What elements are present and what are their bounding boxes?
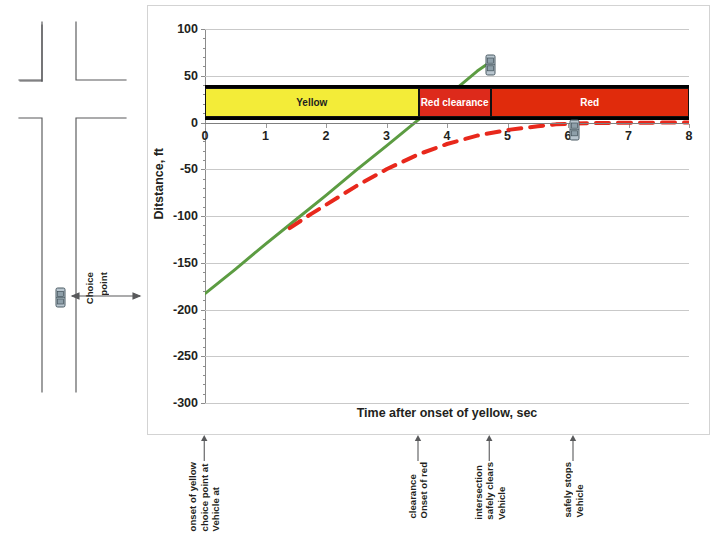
annotation-line: clearance <box>406 462 418 519</box>
y-tick-label: -300 <box>173 396 198 410</box>
annotation-line: choice point at <box>198 462 210 531</box>
y-tick-label: -50 <box>180 162 198 176</box>
car-stopped <box>569 119 580 145</box>
choice-point-label-line2: point <box>98 272 109 296</box>
choice-point-label-2: point <box>98 272 132 342</box>
road-lines-svg <box>0 0 148 440</box>
annotation-vehicle-safely-stops: Vehiclesafely stops <box>562 435 585 518</box>
annotation-vehicle-safely-clears: Vehiclesafely clearsintersection <box>472 435 507 520</box>
annotation-onset-of-red-clearance: Onset of redclearance <box>406 435 429 519</box>
signal-segment-red: Red <box>491 88 689 117</box>
car-icon <box>485 54 496 76</box>
annotation-text: Vehiclesafely clearsintersection <box>472 462 507 520</box>
signal-segment-red-clearance: Red clearance <box>419 88 491 117</box>
annotation-line: Vehicle <box>495 462 507 520</box>
annotation-text: Vehicle atchoice point atonset of yellow <box>187 462 222 531</box>
annotation-line: Vehicle at <box>210 462 222 531</box>
arrow-up-icon <box>413 435 422 461</box>
road-intersection-diagram: Choice point <box>0 0 148 440</box>
annotation-vehicle-at-choice-point: Vehicle atchoice point atonset of yellow <box>187 435 222 531</box>
car-icon <box>56 288 65 307</box>
arrow-up-icon <box>569 435 578 461</box>
y-tick-mark <box>201 403 205 404</box>
choice-point-label-line1: Choice <box>84 272 95 304</box>
y-tick-label: -250 <box>173 349 198 363</box>
annotation-line: safely clears <box>484 462 496 520</box>
y-axis-title: Ditstance, ft <box>152 148 166 278</box>
car-icon <box>569 119 580 141</box>
x-axis-line <box>205 123 689 124</box>
y-tick-label: 50 <box>184 69 198 83</box>
x-tick-mark <box>689 124 690 128</box>
annotation-text: Vehiclesafely stops <box>562 462 585 518</box>
annotation-line: safely stops <box>562 462 574 518</box>
arrow-up-icon <box>485 435 494 461</box>
annotation-line: Vehicle <box>573 462 585 518</box>
annotation-line: Onset of red <box>418 462 430 519</box>
chart-panel: Ditstance, ft -300-250-200-150-100-50050… <box>147 5 710 435</box>
y-tick-label: 100 <box>177 22 198 36</box>
x-axis-title: Time after onset of yellow, sec <box>205 406 689 420</box>
y-tick-label: -100 <box>173 209 198 223</box>
y-tick-label: -200 <box>173 303 198 317</box>
y-axis-title-text: Ditstance, ft <box>152 148 166 220</box>
gridline <box>205 403 689 404</box>
signal-segment-yellow: Yellow <box>205 88 419 117</box>
annotation-line: intersection <box>472 462 484 520</box>
car-clears-intersection <box>485 54 496 80</box>
arrow-up-icon <box>200 435 209 461</box>
annotation-line: onset of yellow <box>187 462 199 531</box>
plot-area: -300-250-200-150-100-50050100 012345678 … <box>205 29 689 403</box>
annotation-text: Onset of redclearance <box>406 462 429 519</box>
y-tick-label: 0 <box>191 116 198 130</box>
annotation-callouts: Vehicle atchoice point atonset of yellow… <box>147 435 710 539</box>
signal-phase-bar: YellowRed clearanceRed <box>205 85 689 120</box>
y-tick-label: -150 <box>173 256 198 270</box>
